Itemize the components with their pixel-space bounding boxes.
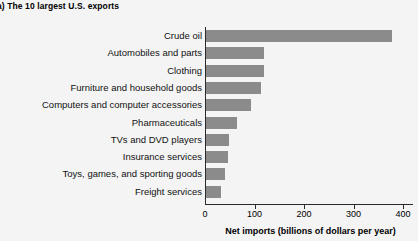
bar-category-label: Pharmaceuticals [132, 117, 202, 129]
bar-row: Insurance services [0, 151, 418, 163]
bar [206, 186, 221, 198]
bar [206, 134, 229, 146]
bar-row: Automobiles and parts [0, 47, 418, 59]
bar-category-label: Clothing [167, 65, 202, 77]
bar-category-label: Insurance services [123, 151, 202, 163]
bar-row: Toys, games, and sporting goods [0, 168, 418, 180]
bar-category-label: Computers and computer accessories [42, 99, 202, 111]
bar-category-label: Freight services [135, 186, 202, 198]
bar-row: Freight services [0, 186, 418, 198]
bar-category-label: Crude oil [164, 30, 202, 42]
bar [206, 82, 261, 94]
x-tick-label: 400 [396, 209, 411, 219]
x-axis-line [205, 204, 413, 205]
bar-category-label: Furniture and household goods [70, 82, 202, 94]
bar-row: Computers and computer accessories [0, 99, 418, 111]
bar [206, 168, 225, 180]
bar [206, 47, 264, 59]
bar [206, 117, 237, 129]
chart-screenshot: a) The 10 largest U.S. exports Crude oil… [0, 0, 418, 241]
bar [206, 99, 251, 111]
chart-title: a) The 10 largest U.S. exports [0, 1, 119, 11]
bar-row: Clothing [0, 65, 418, 77]
x-tick-label: 0 [202, 209, 207, 219]
bar [206, 30, 392, 42]
x-tick-label: 300 [346, 209, 361, 219]
bar-row: TVs and DVD players [0, 134, 418, 146]
bar-row: Crude oil [0, 30, 418, 42]
bar-row: Pharmaceuticals [0, 117, 418, 129]
bar-category-label: TVs and DVD players [111, 134, 202, 146]
bar-category-label: Automobiles and parts [107, 47, 202, 59]
bar-row: Furniture and household goods [0, 82, 418, 94]
x-axis-title: Net imports (billions of dollars per yea… [205, 226, 416, 236]
x-tick-label: 100 [247, 209, 262, 219]
x-tick-label: 200 [297, 209, 312, 219]
bar-category-label: Toys, games, and sporting goods [63, 168, 202, 180]
bar [206, 151, 228, 163]
bar [206, 65, 264, 77]
